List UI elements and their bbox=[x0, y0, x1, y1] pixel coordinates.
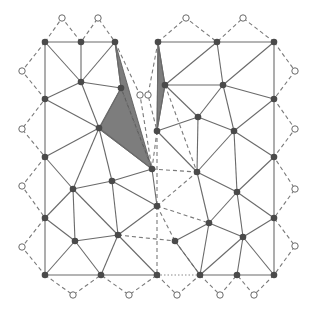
mesh-node bbox=[162, 82, 169, 89]
mesh-node bbox=[271, 154, 278, 161]
mesh-node bbox=[42, 272, 49, 279]
ghost-point bbox=[145, 92, 151, 98]
mesh-node bbox=[214, 39, 221, 46]
mesh-node bbox=[96, 125, 103, 132]
mesh-node bbox=[206, 220, 213, 227]
mesh-node bbox=[172, 238, 179, 245]
mesh-node bbox=[154, 272, 161, 279]
mesh-node bbox=[231, 128, 238, 135]
ghost-point bbox=[183, 15, 189, 21]
ghost-point bbox=[137, 92, 143, 98]
mesh-node bbox=[78, 79, 85, 86]
mesh-node bbox=[271, 39, 278, 46]
mesh-node bbox=[195, 114, 202, 121]
ghost-point bbox=[19, 183, 25, 189]
mesh-node bbox=[271, 96, 278, 103]
mesh-node bbox=[194, 169, 201, 176]
mesh-diagram bbox=[0, 0, 318, 317]
mesh-node bbox=[78, 39, 85, 46]
mesh-node bbox=[154, 128, 161, 135]
mesh-node bbox=[271, 272, 278, 279]
ghost-point bbox=[240, 15, 246, 21]
mesh-node bbox=[118, 85, 125, 92]
ghost-point bbox=[19, 68, 25, 74]
mesh-node bbox=[149, 166, 156, 173]
ghost-point bbox=[126, 292, 132, 298]
mesh-node bbox=[42, 154, 49, 161]
ghost-point bbox=[59, 15, 65, 21]
shaded-triangles bbox=[99, 42, 165, 169]
mesh-node bbox=[115, 232, 122, 239]
shaded-sliver-left bbox=[99, 88, 152, 169]
mesh-node bbox=[234, 272, 241, 279]
mesh-node bbox=[42, 215, 49, 222]
mesh-node bbox=[70, 186, 77, 193]
ghost-point bbox=[251, 292, 257, 298]
ghost-point bbox=[95, 15, 101, 21]
ghost-point bbox=[19, 126, 25, 132]
mesh-node bbox=[240, 234, 247, 241]
ghost-point bbox=[217, 292, 223, 298]
mesh-node bbox=[112, 39, 119, 46]
ghost-point bbox=[19, 244, 25, 250]
ghost-point bbox=[70, 292, 76, 298]
mesh-node bbox=[109, 178, 116, 185]
mesh-node bbox=[154, 203, 161, 210]
mesh-node bbox=[271, 215, 278, 222]
ghost-point bbox=[292, 186, 298, 192]
ghost-point bbox=[292, 126, 298, 132]
mesh-node bbox=[42, 39, 49, 46]
mesh-node bbox=[220, 82, 227, 89]
mesh-node bbox=[72, 238, 79, 245]
mesh-node bbox=[234, 189, 241, 196]
ghost-point bbox=[292, 243, 298, 249]
mesh-node bbox=[155, 39, 162, 46]
mesh-node bbox=[197, 272, 204, 279]
ghost-point bbox=[174, 292, 180, 298]
mesh-node bbox=[42, 96, 49, 103]
ghost-point bbox=[292, 68, 298, 74]
mesh-node bbox=[98, 272, 105, 279]
